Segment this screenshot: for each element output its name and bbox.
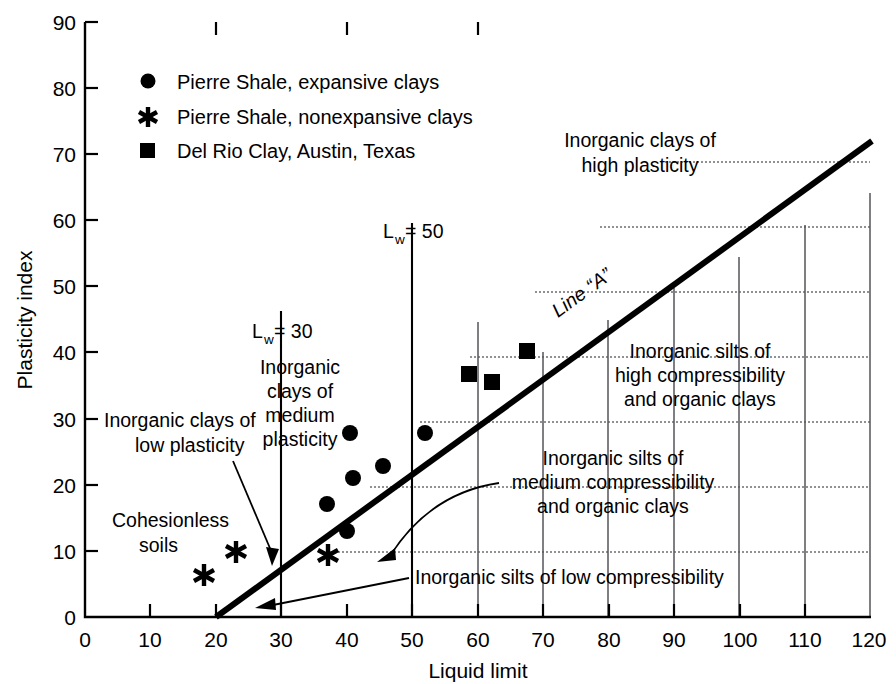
x-axis-title: Liquid limit xyxy=(428,659,527,682)
x-tick-label: 30 xyxy=(269,628,292,651)
legend: Pierre Shale, expansive clays Pierre Sha… xyxy=(139,71,473,162)
y-tick-label: 20 xyxy=(53,474,76,497)
lw50-value: = 50 xyxy=(405,220,444,242)
annotation-line: Inorganic clays of xyxy=(564,129,716,151)
annotation-line: Inorganic clays of xyxy=(104,409,256,431)
lw30-value: = 30 xyxy=(274,320,313,342)
arrowhead xyxy=(377,548,396,562)
y-tick-label: 90 xyxy=(53,11,76,34)
annotation-line: plasticity xyxy=(263,428,338,450)
leader-curve xyxy=(390,483,499,556)
chart-canvas: 90 80 70 60 50 40 30 20 10 0 0 10 20 30 … xyxy=(0,0,896,684)
x-tick-label: 40 xyxy=(335,628,358,651)
data-point xyxy=(484,374,500,390)
annotation-line: Inorganic xyxy=(260,356,340,378)
line-a-label: Line “A” xyxy=(547,262,616,321)
plasticity-chart: 90 80 70 60 50 40 30 20 10 0 0 10 20 30 … xyxy=(0,0,896,684)
x-tick-label: 10 xyxy=(138,628,161,651)
circle-marker-icon xyxy=(141,74,156,89)
arrowhead xyxy=(266,547,279,566)
annotation-clays-low-plasticity: Inorganic clays of low plasticity xyxy=(104,409,279,566)
annotation-line: Inorganic silts of xyxy=(543,447,684,469)
annotation-line: medium compressibility xyxy=(512,471,715,493)
data-point xyxy=(519,343,535,359)
data-point xyxy=(417,425,433,441)
y-tick-label: 0 xyxy=(64,606,76,629)
x-tick-label: 90 xyxy=(662,628,685,651)
data-point xyxy=(461,366,477,382)
y-tick-label: 30 xyxy=(53,408,76,431)
lw30-label: L w = 30 xyxy=(252,320,313,347)
legend-item-label: Del Rio Clay, Austin, Texas xyxy=(177,140,415,162)
annotation-line: high compressibility xyxy=(615,364,785,386)
x-tick-label: 110 xyxy=(788,628,821,651)
annotation-silts-low-compressibility: Inorganic silts of low compressibility xyxy=(255,566,724,610)
x-tick-label: 70 xyxy=(531,628,554,651)
data-point xyxy=(375,458,391,474)
data-point xyxy=(342,425,358,441)
data-point xyxy=(194,564,214,586)
data-point xyxy=(339,523,355,539)
y-tick-label: 40 xyxy=(53,341,76,364)
y-tick-label: 10 xyxy=(53,540,76,563)
annotation-line: Inorganic silts of low compressibility xyxy=(415,566,724,588)
x-tick-label: 120 xyxy=(851,628,886,651)
annotation-line: medium xyxy=(265,404,334,426)
data-point xyxy=(345,470,361,486)
annotation-line: clays of xyxy=(267,380,334,402)
series-del-rio-clay xyxy=(461,343,535,390)
annotation-line: Cohesionless xyxy=(112,509,229,531)
annotation-line: soils xyxy=(139,534,178,556)
y-tick-label: 60 xyxy=(53,209,76,232)
annotation-line: and organic clays xyxy=(537,495,689,517)
annotation-clays-high-plasticity: Inorganic clays of high plasticity xyxy=(564,129,716,176)
y-tick-labels: 90 80 70 60 50 40 30 20 10 0 xyxy=(53,11,76,629)
arrowhead xyxy=(255,598,276,610)
x-tick-label: 80 xyxy=(597,628,620,651)
data-point xyxy=(318,544,338,566)
asterisk-marker-icon xyxy=(139,107,157,127)
y-axis-title: Plasticity index xyxy=(13,250,36,389)
annotation-line: Inorganic silts of xyxy=(630,340,771,362)
legend-item-label: Pierre Shale, expansive clays xyxy=(177,71,439,93)
annotation-clays-medium-plasticity: Inorganic clays of medium plasticity xyxy=(260,356,340,450)
annotation-cohesionless-soils: Cohesionless soils xyxy=(112,509,229,556)
annotation-line: and organic clays xyxy=(624,388,776,410)
lw50-label: L w = 50 xyxy=(383,220,444,247)
lw30-base: L xyxy=(252,320,263,342)
lw50-base: L xyxy=(383,220,394,242)
lw50-subscript: w xyxy=(394,232,405,247)
lw30-subscript: w xyxy=(263,332,274,347)
annotation-line: high plasticity xyxy=(581,154,698,176)
grid-group xyxy=(318,162,870,617)
leader-line xyxy=(233,461,272,553)
leader-line xyxy=(268,578,409,606)
annotation-line: low plasticity xyxy=(135,434,245,456)
x-tick-label: 50 xyxy=(400,628,423,651)
x-tick-label: 100 xyxy=(722,628,757,651)
data-point xyxy=(226,541,246,563)
legend-item-label: Pierre Shale, nonexpansive clays xyxy=(177,106,473,128)
x-tick-label: 0 xyxy=(79,628,91,651)
x-tick-labels: 0 10 20 30 40 50 60 70 80 90 100 110 120 xyxy=(79,628,886,651)
x-tick-label: 60 xyxy=(466,628,489,651)
square-marker-icon xyxy=(140,143,155,158)
annotation-silts-high-compressibility: Inorganic silts of high compressibility … xyxy=(615,340,785,410)
y-tick-label: 70 xyxy=(53,143,76,166)
y-tick-label: 50 xyxy=(53,275,76,298)
data-point xyxy=(319,496,335,512)
x-tick-label: 20 xyxy=(204,628,227,651)
y-tick-label: 80 xyxy=(53,77,76,100)
